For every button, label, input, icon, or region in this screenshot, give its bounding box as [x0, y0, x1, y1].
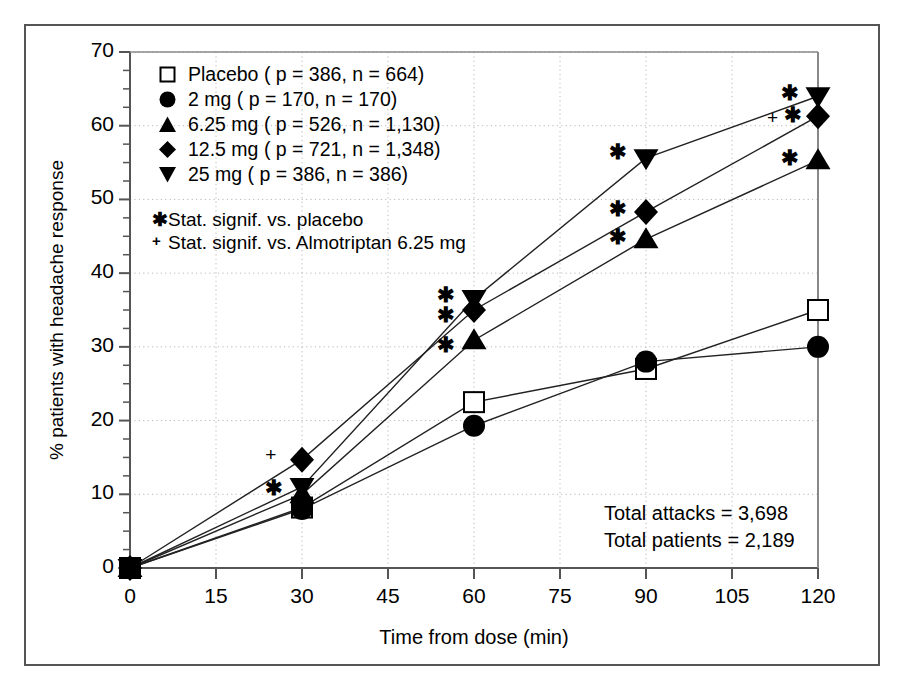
data-point-filled-circle	[463, 415, 485, 437]
asterisk-annotation: ✱	[437, 334, 455, 355]
legend-item: 12.5 mg ( p = 721, n = 1,348)	[152, 137, 441, 162]
y-tick-label: 60	[91, 112, 114, 136]
filled-triangle-down-icon	[152, 165, 182, 184]
x-tick-label: 60	[434, 584, 514, 608]
x-tick-label: 45	[348, 584, 428, 608]
legend-item: 6.25 mg ( p = 526, n = 1,130)	[152, 112, 441, 137]
asterisk-icon: ✱	[152, 208, 168, 231]
data-point-filled-triangle-up	[634, 227, 659, 248]
plus-annotation: +	[767, 108, 778, 127]
x-tick-label: 30	[262, 584, 342, 608]
y-tick-label: 20	[91, 407, 114, 431]
significance-note: + Stat. signif. vs. Almotriptan 6.25 mg	[152, 231, 466, 254]
asterisk-annotation: ✱	[609, 198, 627, 219]
x-tick-label: 75	[520, 584, 600, 608]
asterisk-annotation: ✱	[609, 141, 627, 162]
data-point-open-square	[464, 392, 484, 412]
legend-label: 6.25 mg ( p = 526, n = 1,130)	[182, 112, 441, 137]
data-point-filled-triangle-down	[634, 149, 659, 170]
total-attacks: Total attacks = 3,698	[604, 500, 795, 527]
x-tick-label: 105	[692, 584, 772, 608]
y-tick-label: 30	[91, 333, 114, 357]
filled-triangle-up-icon	[152, 115, 182, 134]
x-tick-label: 15	[176, 584, 256, 608]
significance-note-text: Stat. signif. vs. Almotriptan 6.25 mg	[168, 231, 466, 254]
y-tick-label: 70	[91, 38, 114, 62]
legend-label: 2 mg ( p = 170, n = 170)	[182, 87, 397, 112]
x-tick-label: 120	[778, 584, 858, 608]
data-point-filled-diamond	[634, 199, 658, 225]
plus-annotation: +	[265, 445, 276, 464]
y-tick-label: 40	[91, 259, 114, 283]
asterisk-annotation: ✱	[609, 226, 627, 247]
data-point-filled-circle	[635, 351, 657, 373]
x-tick-label: 0	[90, 584, 170, 608]
significance-note-text: Stat. signif. vs. placebo	[168, 208, 363, 231]
asterisk-annotation: ✱	[781, 147, 799, 168]
legend-label: 12.5 mg ( p = 721, n = 1,348)	[182, 137, 441, 162]
open-square-icon	[152, 65, 182, 84]
y-tick-label: 50	[91, 185, 114, 209]
total-patients: Total patients = 2,189	[604, 527, 795, 554]
data-point-filled-triangle-up	[462, 328, 487, 349]
plus-icon: +	[152, 231, 168, 251]
legend-label: 25 mg ( p = 386, n = 386)	[182, 162, 408, 187]
data-point-filled-triangle-down	[290, 478, 315, 499]
figure-panel: % patients with headache response Time f…	[0, 0, 902, 692]
y-axis-title: % patients with headache response	[46, 160, 68, 460]
data-point-filled-triangle-up	[806, 148, 831, 169]
legend-item: 2 mg ( p = 170, n = 170)	[152, 87, 441, 112]
significance-note: ✱ Stat. signif. vs. placebo	[152, 208, 466, 231]
y-tick-label: 10	[91, 480, 114, 504]
asterisk-annotation: ✱	[781, 82, 799, 103]
asterisk-annotation: ✱	[265, 477, 283, 498]
y-tick-label: 0	[102, 554, 114, 578]
legend: Placebo ( p = 386, n = 664) 2 mg ( p = 1…	[152, 62, 441, 187]
x-axis-title: Time from dose (min)	[374, 626, 574, 649]
filled-circle-icon	[152, 90, 182, 109]
data-point-open-square	[808, 300, 828, 320]
data-point-filled-triangle-down	[806, 87, 831, 108]
x-tick-label: 90	[606, 584, 686, 608]
asterisk-annotation: ✱	[437, 304, 455, 325]
legend-item: 25 mg ( p = 386, n = 386)	[152, 162, 441, 187]
asterisk-annotation: ✱	[437, 284, 455, 305]
asterisk-annotation: ✱	[784, 104, 802, 125]
legend-item: Placebo ( p = 386, n = 664)	[152, 62, 441, 87]
data-point-filled-diamond	[290, 447, 314, 473]
legend-label: Placebo ( p = 386, n = 664)	[182, 62, 424, 87]
significance-notes: ✱ Stat. signif. vs. placebo + Stat. sign…	[152, 208, 466, 254]
data-point-filled-circle	[807, 336, 829, 358]
filled-diamond-icon	[152, 140, 182, 159]
totals-block: Total attacks = 3,698 Total patients = 2…	[604, 500, 795, 554]
